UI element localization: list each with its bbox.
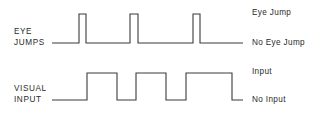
eye-jump-low-level-label: No Eye Jump — [252, 38, 305, 49]
visual-input-low-level-label: No Input — [252, 95, 286, 106]
visual-input-row-label-line2: INPUT — [14, 95, 47, 106]
eye-jump-high-level-label: Eye Jump — [252, 8, 291, 19]
timing-diagram-figure: EYE JUMPS VISUAL INPUT Eye Jump No Eye J… — [0, 0, 319, 114]
visual-input-waveform — [52, 73, 243, 100]
visual-input-row-label-line1: VISUAL — [14, 84, 47, 95]
visual-input-high-level-label: Input — [252, 67, 272, 78]
eye-jumps-row-label-line2: JUMPS — [14, 38, 45, 49]
eye-jumps-waveform — [52, 14, 243, 43]
eye-jumps-row-label-line1: EYE — [14, 27, 45, 38]
eye-jumps-row-label: EYE JUMPS — [14, 27, 45, 48]
visual-input-row-label: VISUAL INPUT — [14, 84, 47, 105]
